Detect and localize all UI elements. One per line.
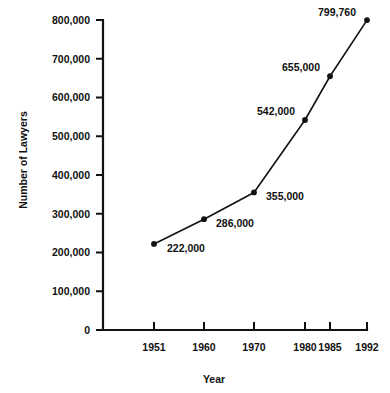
x-axis-group: 195119601970198019851992 <box>103 322 379 353</box>
x-tick-label: 1992 <box>355 341 379 353</box>
y-axis-tick-labels: 800,000700,000600,000500,000400,000300,0… <box>52 14 90 336</box>
y-axis-title: Number of Lawyers <box>17 111 29 209</box>
y-tick-label: 200,000 <box>52 246 90 258</box>
data-point-label: 655,000 <box>282 61 320 73</box>
data-point-marker <box>151 241 157 247</box>
x-tick-label: 1970 <box>242 341 266 353</box>
data-point-label: 286,000 <box>216 217 254 229</box>
data-point-marker <box>251 190 257 196</box>
y-tick-label: 700,000 <box>52 53 90 65</box>
y-tick-label: 0 <box>84 324 90 336</box>
x-tick-label: 1980 <box>293 341 317 353</box>
data-series-group: 222,000286,000355,000542,000655,000799,7… <box>151 6 370 254</box>
y-tick-label: 100,000 <box>52 285 90 297</box>
y-tick-label: 300,000 <box>52 208 90 220</box>
series-line-lawyers <box>154 20 367 244</box>
data-point-marker <box>364 17 370 23</box>
data-point-label: 222,000 <box>167 242 205 254</box>
data-point-marker <box>327 73 333 79</box>
x-axis-title: Year <box>203 373 225 385</box>
series-markers <box>151 17 370 247</box>
data-point-label: 799,760 <box>318 6 356 18</box>
lawyers-line-chart: 800,000700,000600,000500,000400,000300,0… <box>0 0 390 393</box>
series-point-labels: 222,000286,000355,000542,000655,000799,7… <box>167 6 356 254</box>
x-tick-label: 1951 <box>142 341 166 353</box>
data-point-label: 355,000 <box>266 190 304 202</box>
y-tick-label: 600,000 <box>52 91 90 103</box>
y-axis-group: 800,000700,000600,000500,000400,000300,0… <box>52 14 103 336</box>
x-axis-ticks <box>154 322 367 330</box>
data-point-marker <box>302 117 308 123</box>
x-tick-label: 1960 <box>192 341 216 353</box>
data-point-marker <box>201 216 207 222</box>
y-tick-label: 500,000 <box>52 130 90 142</box>
x-axis-tick-labels: 195119601970198019851992 <box>142 341 379 353</box>
y-tick-label: 400,000 <box>52 169 90 181</box>
x-tick-label: 1985 <box>318 341 342 353</box>
data-point-label: 542,000 <box>257 105 295 117</box>
chart-canvas: 800,000700,000600,000500,000400,000300,0… <box>0 0 390 393</box>
y-tick-label: 800,000 <box>52 14 90 26</box>
